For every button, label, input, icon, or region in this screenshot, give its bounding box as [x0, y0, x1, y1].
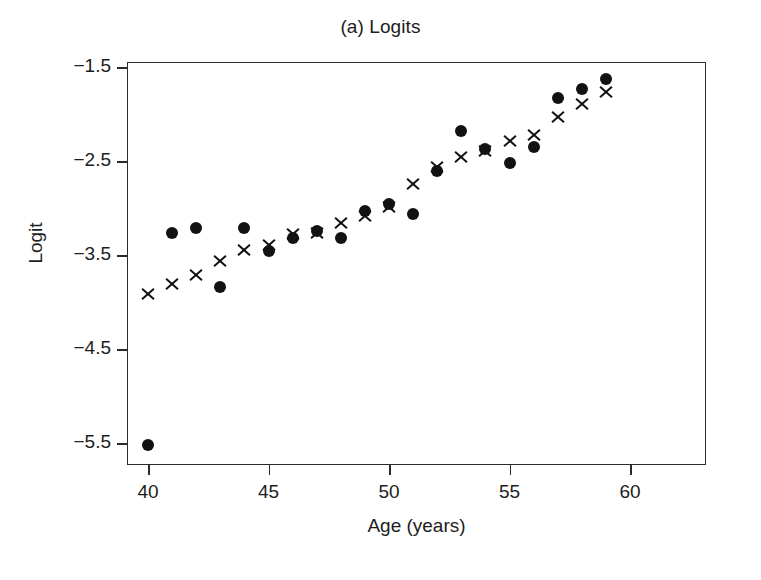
circle-marker-icon: [504, 157, 516, 169]
cross-marker-icon: [188, 267, 204, 283]
cross-marker-icon: [526, 127, 542, 143]
x-tick-label-2: 50: [359, 481, 419, 503]
circle-marker-icon: [335, 232, 347, 244]
x-tick-label-0: 40: [118, 481, 178, 503]
cross-marker-icon: [477, 143, 493, 159]
y-tick-label: −2.5: [49, 149, 111, 171]
circle-marker-icon: [190, 222, 202, 234]
y-tick-mark: [117, 67, 127, 69]
x-tick-mark-1: [269, 465, 271, 475]
circle-marker-icon: [407, 208, 419, 220]
x-tick-label-1: 45: [239, 481, 299, 503]
cross-marker-icon: [453, 149, 469, 165]
y-tick-label: −4.5: [49, 337, 111, 359]
x-tick-mark-0: [148, 465, 150, 475]
y-tick-label: −3.5: [49, 243, 111, 265]
y-tick-mark: [117, 443, 127, 445]
x-axis-label: Age (years): [127, 515, 706, 537]
y-tick-label: −1.5: [49, 55, 111, 77]
cross-marker-icon: [333, 215, 349, 231]
cross-marker-icon: [598, 84, 614, 100]
circle-marker-icon: [576, 83, 588, 95]
cross-marker-icon: [140, 286, 156, 302]
cross-marker-icon: [309, 225, 325, 241]
cross-marker-icon: [164, 276, 180, 292]
cross-marker-icon: [574, 96, 590, 112]
y-tick-mark: [117, 161, 127, 163]
y-tick-mark: [117, 349, 127, 351]
chart-title: (a) Logits: [0, 16, 761, 38]
x-tick-mark-2: [389, 465, 391, 475]
cross-marker-icon: [381, 199, 397, 215]
circle-marker-icon: [142, 439, 154, 451]
cross-marker-icon: [261, 237, 277, 253]
y-axis-label: Logit: [25, 183, 47, 303]
cross-marker-icon: [405, 176, 421, 192]
x-tick-label-3: 55: [480, 481, 540, 503]
x-tick-mark-4: [630, 465, 632, 475]
y-tick-label: −5.5: [49, 431, 111, 453]
x-tick-mark-3: [510, 465, 512, 475]
circle-marker-icon: [528, 141, 540, 153]
cross-marker-icon: [285, 226, 301, 242]
cross-marker-icon: [236, 242, 252, 258]
cross-marker-icon: [212, 253, 228, 269]
circle-marker-icon: [552, 92, 564, 104]
figure-logits-scatter: (a) Logits Logit −1.5−2.5−3.5−4.5−5.5 40…: [0, 0, 761, 580]
cross-marker-icon: [550, 109, 566, 125]
cross-marker-icon: [502, 133, 518, 149]
x-tick-label-4: 60: [600, 481, 660, 503]
y-tick-mark: [117, 255, 127, 257]
cross-marker-icon: [357, 208, 373, 224]
cross-marker-icon: [429, 159, 445, 175]
